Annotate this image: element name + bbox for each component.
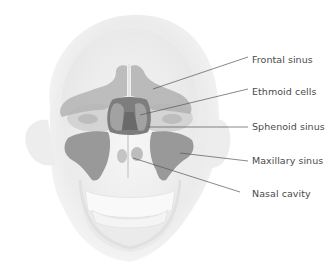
left-ethmoid-cells <box>110 103 124 131</box>
sinus-diagram <box>0 0 330 278</box>
label-nasal-cavity: Nasal cavity <box>252 189 311 199</box>
left-eye <box>78 114 98 124</box>
right-eye <box>162 114 182 124</box>
label-frontal-sinus: Frontal sinus <box>252 55 313 65</box>
ethmoid-sphenoid <box>107 97 151 135</box>
label-maxillary-sinus: Maxillary sinus <box>252 156 323 166</box>
label-sphenoid-sinus: Sphenoid sinus <box>252 122 325 132</box>
label-ethmoid-cells: Ethmoid cells <box>252 87 316 97</box>
